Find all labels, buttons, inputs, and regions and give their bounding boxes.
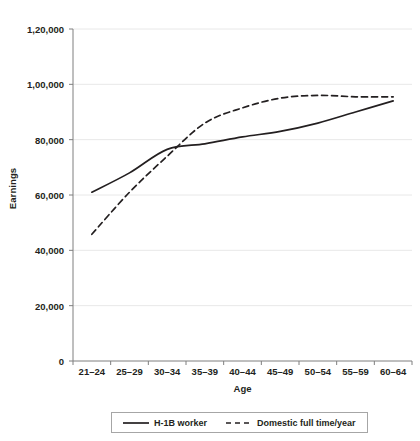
data-series xyxy=(92,95,393,234)
y-tick-label: 0 xyxy=(59,356,64,367)
y-tick-label: 40,000 xyxy=(35,245,64,256)
chart-legend: H-1B workerDomestic full time/year xyxy=(111,412,368,433)
y-axis-tick-labels: 020,00040,00060,00080,0001,00,0001,20,00… xyxy=(0,0,73,441)
x-tick-label: 25–29 xyxy=(116,366,142,377)
legend-item[interactable]: Domestic full time/year xyxy=(226,418,356,428)
dashed-line-icon xyxy=(226,419,252,427)
x-tick-label: 45–49 xyxy=(267,366,293,377)
x-tick-label: 21–24 xyxy=(79,366,105,377)
x-axis-title: Age xyxy=(73,383,412,394)
series-line-domestic-full-time-year xyxy=(92,95,393,234)
y-tick-label: 80,000 xyxy=(35,134,64,145)
x-tick-label: 30–34 xyxy=(154,366,180,377)
y-tick-label: 1,20,000 xyxy=(27,24,64,35)
x-tick-label: 35–39 xyxy=(192,366,218,377)
solid-line-icon xyxy=(123,419,149,427)
x-tick-label: 60–64 xyxy=(380,366,406,377)
y-tick-label: 60,000 xyxy=(35,190,64,201)
x-axis-tick-labels: 21–2425–2930–3435–3940–4445–4950–5455–59… xyxy=(73,366,412,384)
series-line-h-1b-worker xyxy=(92,101,393,192)
y-tick-label: 1,00,000 xyxy=(27,79,64,90)
x-tick-label: 40–44 xyxy=(229,366,255,377)
legend-item[interactable]: H-1B worker xyxy=(123,418,207,428)
legend-label: H-1B worker xyxy=(154,418,207,428)
x-axis-ticks xyxy=(73,361,412,365)
gridlines xyxy=(73,29,412,306)
x-tick-label: 55–59 xyxy=(342,366,368,377)
plot-area xyxy=(73,29,412,361)
plot-svg xyxy=(73,29,412,361)
earnings-by-age-chart: Earnings 020,00040,00060,00080,0001,00,0… xyxy=(0,0,420,441)
x-tick-label: 50–54 xyxy=(305,366,331,377)
y-tick-label: 20,000 xyxy=(35,300,64,311)
legend-label: Domestic full time/year xyxy=(257,418,356,428)
